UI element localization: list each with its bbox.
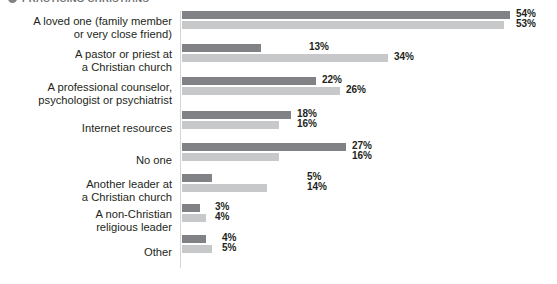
bar-series-1 (182, 77, 316, 85)
bar-series-2 (182, 153, 279, 161)
bar-series-2 (182, 121, 279, 129)
bar-series-1 (182, 111, 291, 119)
bar-series-1 (182, 235, 206, 243)
bar-series-2 (182, 184, 267, 192)
bar-series-1 (182, 143, 346, 151)
bar-value-series-2: 14% (307, 181, 327, 192)
bar-series-2 (182, 87, 340, 95)
bar-value-series-2: 53% (516, 18, 536, 29)
bar-series-1 (182, 44, 261, 52)
bar-value-series-2: 26% (346, 84, 366, 95)
category-label: A professional counselor, psychologist o… (0, 81, 172, 107)
category-label: A pastor or priest at a Christian church (0, 48, 172, 74)
bar-value-series-2: 5% (222, 242, 236, 253)
bar-value-series-2: 16% (297, 118, 317, 129)
bar-series-1 (182, 204, 200, 212)
legend-swatch-icon (8, 0, 17, 3)
bar-value-series-2: 16% (352, 150, 372, 161)
bar-series-2 (182, 21, 504, 29)
bar-series-2 (182, 54, 388, 62)
bar-value-series-2: 4% (215, 211, 229, 222)
category-label: A loved one (family member or very close… (0, 15, 172, 41)
category-label: No one (0, 154, 172, 167)
bar-value-series-2: 34% (394, 51, 414, 62)
plot-area: A loved one (family member or very close… (0, 11, 557, 273)
bar-value-series-1: 22% (322, 74, 342, 85)
bar-value-series-1: 13% (309, 41, 329, 52)
bar-series-2 (182, 245, 212, 253)
category-label: A non-Christian religious leader (0, 208, 172, 234)
value-axis-line (180, 11, 181, 268)
bar-chart: PRACTICING CHRISTIANS A loved one (famil… (0, 0, 557, 284)
bar-series-1 (182, 11, 510, 19)
bar-series-1 (182, 174, 212, 182)
legend-item: PRACTICING CHRISTIANS (8, 0, 149, 4)
category-label: Internet resources (0, 122, 172, 135)
category-label: Other (0, 246, 172, 259)
chart-legend: PRACTICING CHRISTIANS (0, 0, 557, 9)
bar-series-2 (182, 214, 206, 222)
category-label: Another leader at a Christian church (0, 178, 172, 204)
legend-label: PRACTICING CHRISTIANS (22, 0, 149, 4)
